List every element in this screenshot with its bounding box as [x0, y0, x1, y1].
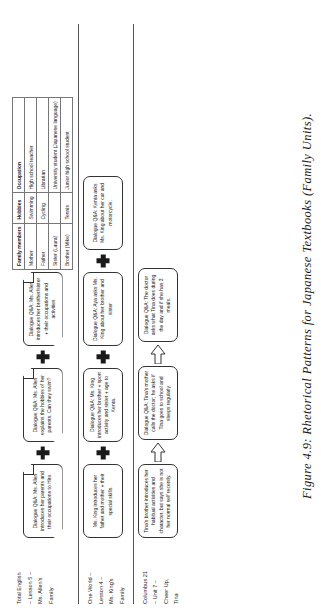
row-label-line: Family [46, 538, 57, 604]
row-label-line: Family [117, 538, 128, 604]
flow-node-box[interactable]: Dialogue Q&A: The doctor asks what Tina … [138, 268, 178, 342]
flow-node-text: Dialogue Q&A: Aya asks Ms. King about he… [92, 276, 114, 342]
rows-container: Total English – Lesson 5 – Ms. Allen's F… [8, 24, 187, 604]
table-row: Mother Swimming High school teacher [25, 98, 37, 270]
row-one-world: One World – Lesson 4 – Ms. King's Family… [78, 24, 133, 604]
flow-node-text: Dialogue Q&A: Ms. Allen introduces her b… [28, 276, 57, 342]
flow-node-box[interactable]: Dialogue Q&A: Kenta asks Ms. King about … [83, 176, 123, 250]
flow-node-box[interactable]: Dialogue Q&A: Aya asks Ms. King about he… [83, 272, 123, 346]
rotated-figure-wrapper: Total English – Lesson 5 – Ms. Allen's F… [0, 0, 321, 612]
flow-node-text: Dialogue Q&A: Ms. Allen introduces her p… [32, 468, 54, 534]
table-header-cell: Occupation [13, 98, 25, 193]
row-label-line: Columbus 21 [140, 538, 151, 604]
row-label-line: Total English [14, 538, 25, 604]
table-cell: Sister (Laura) [49, 223, 61, 269]
flow-node-box[interactable]: Dialogue Q&A: Ms. Allen explains the hob… [23, 368, 63, 442]
table-cell: Tennis [61, 193, 73, 223]
table-header-cell: Family members [13, 223, 25, 269]
row-label-line: Ms. King's [106, 538, 117, 604]
flow-node-text: Dialogue Q&A: Ms. King introduces her br… [89, 372, 118, 438]
flow-node-text: Dialogue Q&A: Kenta asks Ms. King about … [92, 180, 114, 246]
table-cell: Librarian [37, 98, 49, 193]
flow-node-text: Dialogue Q&A: The doctor asks what Tina … [143, 272, 172, 338]
row-label-one-world: One World – Lesson 4 – Ms. King's Family [83, 538, 128, 604]
flow-node-text: Dialogue Q&A: Tina's mother calls the do… [143, 370, 172, 436]
flow-node-box[interactable]: Ms. King introduces her father and mothe… [83, 464, 123, 538]
flow-node-text: Dialogue Q&A: Ms. Allen explains the hob… [32, 372, 54, 438]
table-cell: Swimming [25, 193, 37, 223]
row-total-english: Total English – Lesson 5 – Ms. Allen's F… [8, 24, 78, 604]
table-cell: Mother [25, 223, 37, 269]
flow-node-box[interactable]: Dialogue Q&A: Ms. Allen introduces her b… [23, 272, 63, 346]
table-row: Brother (Mike) Tennis Junior high school… [61, 98, 73, 270]
row-columbus-21: Columbus 21 – Unit 7 – Cheer Up, Tina Ti… [133, 24, 188, 604]
arrow-right-icon [150, 342, 166, 366]
row-label-line: – Unit 7 – [150, 538, 161, 604]
row-label-total-english: Total English – Lesson 5 – Ms. Allen's F… [12, 538, 57, 604]
row-label-line: Cheer Up, [161, 538, 172, 604]
flow-node-box[interactable]: Dialogue Q&A: Tina's mother calls the do… [138, 366, 178, 440]
plus-connector-icon [36, 346, 50, 368]
figure-caption: Figure 4.9: Rhetorical Patterns for Japa… [300, 0, 315, 612]
plus-connector-icon [96, 442, 110, 464]
row-body-columbus-21: Tina's brother introduces her habitual a… [138, 268, 178, 538]
table-header-row: Family members Hobbies Occupation [13, 98, 25, 270]
figure-container: Total English – Lesson 5 – Ms. Allen's F… [0, 0, 321, 612]
flow-node-box[interactable]: Dialogue Q&A: Ms. King introduces her br… [83, 368, 123, 442]
arrow-right-icon [150, 440, 166, 464]
plus-connector-icon [96, 250, 110, 272]
row-body-total-english: Dialogue Q&A: Ms. Allen introduces her p… [12, 95, 73, 538]
row-label-line: Ms. Allen's [35, 538, 46, 604]
plus-connector-icon [96, 346, 110, 368]
table-cell: Father [37, 223, 49, 269]
plus-connector-icon [36, 442, 50, 464]
flow-node-box[interactable]: Dialogue Q&A: Ms. Allen introduces her p… [23, 464, 63, 538]
table-row: Father Cycling Librarian [37, 98, 49, 270]
table-cell: Brother (Mike) [61, 223, 73, 269]
row-label-line: One World – [85, 538, 96, 604]
flow-node-text: Tina's brother introduces her habitual a… [143, 468, 172, 534]
row-label-line: Tina [171, 538, 182, 604]
table-cell: University student (Japanese language) [49, 98, 61, 193]
flow-node-text: Ms. King introduces her father and mothe… [92, 468, 114, 534]
table-cell: Cycling [37, 193, 49, 223]
table-row: Sister (Laura) University student (Japan… [49, 98, 61, 270]
family-members-table: Family members Hobbies Occupation Mother… [12, 97, 73, 270]
row-label-line: – Lesson 5 – [25, 538, 36, 604]
table-cell: High school teacher [25, 98, 37, 193]
row-label-columbus-21: Columbus 21 – Unit 7 – Cheer Up, Tina [138, 538, 183, 604]
table-cell-empty-diagonal [49, 193, 61, 223]
flow-node-box[interactable]: Tina's brother introduces her habitual a… [138, 464, 178, 538]
table-cell: Junior high school student [61, 98, 73, 193]
table-header-cell: Hobbies [13, 193, 25, 223]
row-label-line: Lesson 4 – [96, 538, 107, 604]
row-body-one-world: Ms. King introduces her father and mothe… [83, 176, 123, 538]
